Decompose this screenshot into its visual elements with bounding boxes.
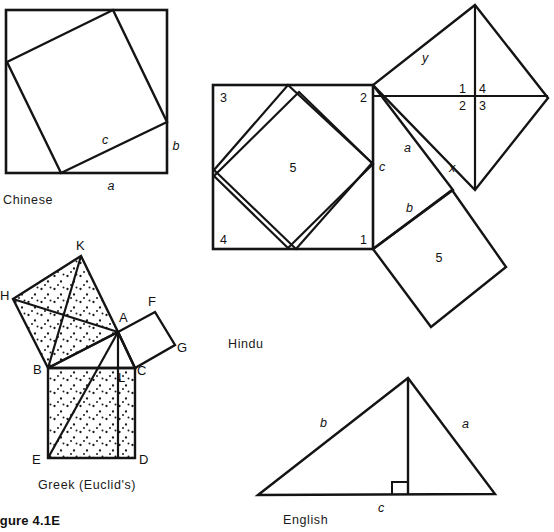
hindu-label-b: b [406,201,413,215]
chinese-label-a: a [108,179,115,193]
hindu-right-square [373,5,548,190]
hindu-diagram: 3 2 4 1 5 1 4 2 3 5 y c a b x [213,5,548,327]
hindu-left-corner-3: 3 [220,91,227,105]
caption-english: English [283,513,328,527]
greek-point-D: D [139,452,148,467]
hindu-right-quadrant-3: 3 [479,99,486,113]
greek-point-H: H [0,288,9,303]
greek-point-B: B [33,362,42,377]
greek-point-F: F [148,294,156,309]
english-triangle [258,378,495,495]
english-right-angle-marker [392,482,408,495]
greek-euclid-diagram: K H A F G B L C E D [0,238,187,467]
hindu-label-x: x [448,161,456,175]
greek-point-E: E [32,452,41,467]
english-label-a: a [462,417,469,431]
hindu-label-y: y [421,51,429,65]
greek-point-K: K [76,238,85,253]
figure-number: igure 4.1E [0,513,60,528]
caption-greek: Greek (Euclid's) [38,478,136,492]
hindu-lower-square-center-5: 5 [436,251,443,265]
hindu-label-c: c [379,160,386,174]
chinese-inner-square [7,10,167,173]
chinese-outer-square [6,10,167,173]
caption-hindu: Hindu [228,337,264,351]
english-label-c: c [378,501,385,515]
greek-point-A: A [119,310,128,325]
hindu-left-corner-2: 2 [360,91,367,105]
chinese-label-c: c [102,133,109,147]
greek-point-G: G [177,340,187,355]
hindu-label-a: a [404,141,411,155]
hindu-left-corner-1: 1 [360,233,367,247]
hindu-right-quadrant-2: 2 [459,99,466,113]
pythagorean-proofs-figure: c b a 3 2 4 1 5 1 4 2 3 5 y c a b x [0,0,554,532]
chinese-label-b: b [173,139,180,153]
greek-point-L: L [118,370,125,385]
caption-chinese: Chinese [3,193,53,207]
hindu-right-quadrant-4: 4 [479,82,486,96]
hindu-left-center-5: 5 [290,161,297,175]
english-label-b: b [320,416,327,430]
greek-point-C: C [137,363,146,378]
chinese-diagram: c b a [6,10,180,193]
hindu-left-corner-4: 4 [220,233,227,247]
english-diagram: b a c [258,378,495,515]
hindu-right-quadrant-1: 1 [459,82,466,96]
